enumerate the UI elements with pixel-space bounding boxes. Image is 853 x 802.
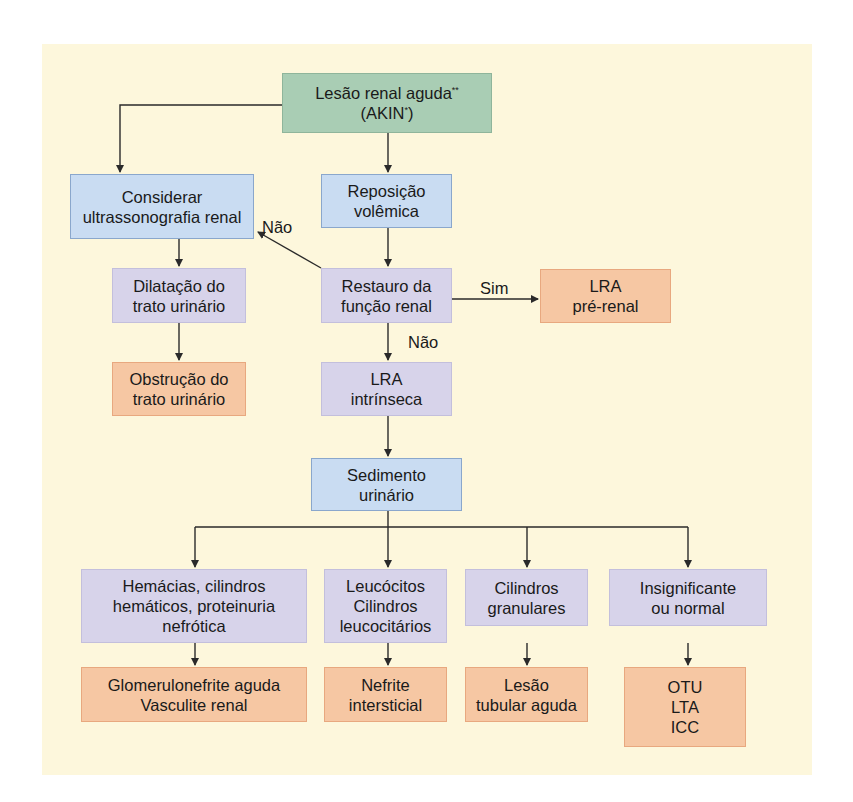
node-considerar-ultrassonografia: Considerar ultrassonografia renal (70, 174, 254, 239)
node-label-akin: (AKIN (360, 104, 404, 122)
node-reposicao-volemica: Reposição volêmica (321, 174, 452, 228)
node-insignificante-normal: Insignificante ou normal (609, 569, 767, 626)
footnote-marker: ** (452, 85, 459, 95)
node-leucocitos-cilindros: Leucócitos Cilindros leucocitários (324, 569, 447, 643)
node-lra-pre-renal: LRA pré-renal (540, 269, 671, 323)
paren-close: ) (408, 104, 414, 122)
node-dilatacao-trato-urinario: Dilatação do trato urinário (112, 268, 246, 323)
node-obstrucao-trato-urinario: Obstrução do trato urinário (112, 362, 246, 416)
node-restauro-funcao-renal: Restauro da função renal (321, 268, 452, 323)
node-nefrite-intersticial: Nefrite intersticial (324, 667, 447, 722)
node-cilindros-granulares: Cilindros granulares (465, 569, 588, 626)
node-sedimento-urinario: Sedimento urinário (311, 458, 462, 511)
node-label: Lesão renal aguda (315, 84, 452, 102)
node-glomerulonefrite-vasculite: Glomerulonefrite aguda Vasculite renal (81, 667, 307, 722)
edge-label-nao-intrinseca: Não (408, 333, 438, 352)
node-lesao-renal-aguda: Lesão renal aguda** (AKIN*) (282, 73, 492, 133)
node-lra-intrinseca: LRA intrínseca (321, 362, 452, 416)
node-lesao-tubular-aguda: Lesão tubular aguda (465, 667, 588, 722)
edge-label-sim: Sim (480, 279, 508, 298)
node-otu-lta-icc: OTU LTA ICC (624, 667, 746, 747)
node-hemacias-cilindros: Hemácias, cilindros hemáticos, proteinur… (81, 569, 307, 643)
edge-label-nao-ultrassom: Não (262, 218, 292, 237)
